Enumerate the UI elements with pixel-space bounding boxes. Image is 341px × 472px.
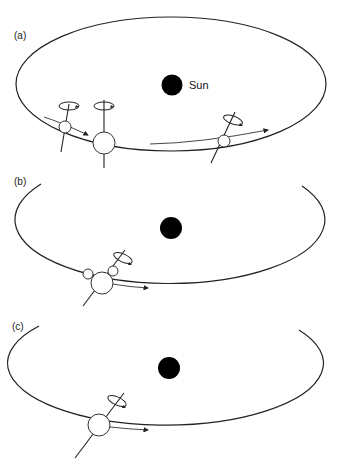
panel-a-label: (a): [14, 30, 26, 41]
planetesimal-small: [59, 102, 79, 152]
sun-icon: [162, 75, 183, 96]
panel-c-label: (c): [12, 321, 24, 332]
planet-tilted: [75, 393, 128, 458]
panel-a: (a) Sun: [14, 17, 326, 168]
panel-b-label: (b): [14, 176, 26, 187]
planetesimal-small-right: [211, 112, 244, 163]
sun-icon: [158, 357, 180, 379]
orbit-direction-arrow: [110, 427, 148, 430]
sun-label: Sun: [189, 79, 209, 91]
sun-icon: [160, 217, 182, 239]
protoplanet-with-moons: [83, 250, 134, 306]
spin-arrow-icon: [106, 393, 128, 409]
planetesimal-large: [93, 100, 115, 168]
orbit-diagram: (a) Sun (b): [0, 0, 341, 472]
panel-b: (b): [14, 176, 325, 306]
panel-c: (c): [7, 321, 323, 458]
orbit-direction-arrow: [112, 284, 148, 288]
